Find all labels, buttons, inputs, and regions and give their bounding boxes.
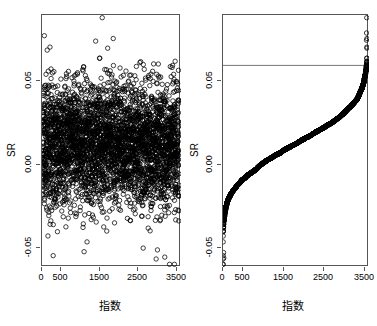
figure-canvas: 0 500 1500 2500 3500 0.05 0.00 -0.05 SR … xyxy=(0,0,377,326)
xtick-mark xyxy=(99,267,100,271)
xtick-label-2500: 2500 xyxy=(313,273,333,282)
xtick-label-1500: 1500 xyxy=(273,273,293,282)
x-axis-title-right: 指数 xyxy=(282,297,304,313)
sorted-curve-right xyxy=(223,15,369,267)
ytick-label-005: 0.05 xyxy=(205,71,214,89)
xtick-mark xyxy=(176,267,177,271)
xtick-mark xyxy=(242,267,243,271)
xtick-label-3500: 3500 xyxy=(166,273,186,282)
ytick-mark xyxy=(217,80,221,81)
xtick-label-2500: 2500 xyxy=(127,273,147,282)
y-axis-title-left: SR xyxy=(6,143,17,157)
xtick-mark xyxy=(222,267,223,271)
xtick-mark xyxy=(41,267,42,271)
xtick-mark xyxy=(323,267,324,271)
ytick-mark xyxy=(36,247,40,248)
ytick-label-000: 0.00 xyxy=(205,155,214,173)
ytick-mark xyxy=(36,80,40,81)
xtick-mark xyxy=(364,267,365,271)
xtick-mark xyxy=(137,267,138,271)
xtick-label-0: 0 xyxy=(219,273,224,282)
xtick-mark xyxy=(283,267,284,271)
plot-area-left xyxy=(41,14,180,266)
plot-area-right xyxy=(222,14,368,266)
scatter-panel-unsorted: 0 500 1500 2500 3500 0.05 0.00 -0.05 SR … xyxy=(0,0,188,326)
ytick-label-n005: -0.05 xyxy=(205,237,214,258)
x-axis-title-left: 指数 xyxy=(99,297,121,313)
xtick-mark xyxy=(60,267,61,271)
xtick-label-3500: 3500 xyxy=(354,273,374,282)
xtick-label-1500: 1500 xyxy=(89,273,109,282)
ytick-mark xyxy=(217,247,221,248)
ytick-label-n005: -0.05 xyxy=(24,237,33,258)
xtick-label-500: 500 xyxy=(234,273,249,282)
scatter-points-left xyxy=(42,15,181,267)
sorted-curve-panel: 0 500 1500 2500 3500 0.05 0.00 -0.05 SR … xyxy=(189,0,377,326)
ytick-mark xyxy=(36,164,40,165)
ytick-label-000: 0.00 xyxy=(24,155,33,173)
xtick-label-500: 500 xyxy=(52,273,67,282)
y-axis-title-right: SR xyxy=(189,143,200,157)
xtick-label-0: 0 xyxy=(38,273,43,282)
ytick-label-005: 0.05 xyxy=(24,71,33,89)
ytick-mark xyxy=(217,164,221,165)
